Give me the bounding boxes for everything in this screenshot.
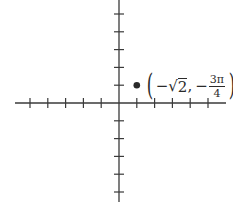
fraction: 3π 4 <box>209 74 225 99</box>
minus-sign: − <box>156 79 169 94</box>
sqrt-sign: √ <box>168 79 178 94</box>
sqrt-expression: √ 2 <box>168 78 187 95</box>
fraction-numerator: 3π <box>209 74 225 87</box>
minus-sign-2: − <box>195 79 208 94</box>
open-paren: ( <box>147 70 153 100</box>
plotted-point <box>134 82 141 89</box>
comma: , <box>187 79 192 94</box>
coordinate-plane <box>0 0 233 202</box>
point-label: ( − √ 2 , − 3π 4 ) <box>144 72 233 100</box>
fraction-denominator: 4 <box>213 87 220 99</box>
sqrt-argument: 2 <box>178 78 188 95</box>
close-paren: ) <box>229 70 233 100</box>
